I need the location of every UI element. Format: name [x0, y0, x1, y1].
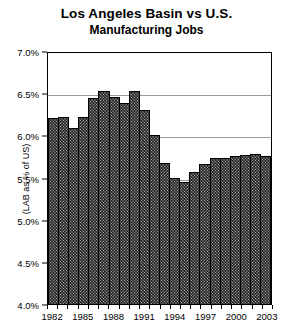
x-tick-label: 1997	[195, 311, 216, 322]
y-tick-label: 7.0%	[17, 47, 39, 58]
chart-title-block: Los Angeles Basin vs U.S. Manufacturing …	[0, 6, 293, 38]
y-tick-label: 6.5%	[17, 89, 39, 100]
x-tick-mark	[190, 305, 191, 309]
x-tick-mark	[98, 305, 99, 309]
x-tick-label: 1982	[42, 311, 63, 322]
plot-area	[47, 52, 272, 305]
chart-subtitle: Manufacturing Jobs	[0, 23, 293, 38]
x-tick-mark	[231, 305, 232, 309]
x-tick-mark	[139, 305, 140, 309]
x-tick-mark	[119, 305, 120, 309]
x-tick-mark	[262, 305, 263, 309]
x-tick-mark	[241, 305, 242, 309]
x-axis: 19821985198819911994199720002003	[47, 305, 272, 330]
x-tick-label: 2000	[226, 311, 247, 322]
y-tick-label: 6.0%	[17, 131, 39, 142]
chart-container: Los Angeles Basin vs U.S. Manufacturing …	[0, 0, 293, 332]
x-tick-mark	[67, 305, 68, 309]
y-tick-label: 5.0%	[17, 215, 39, 226]
x-tick-mark	[170, 305, 171, 309]
x-tick-mark	[149, 305, 150, 309]
x-tick-label: 1991	[134, 311, 155, 322]
x-tick-mark	[272, 305, 273, 309]
bar-series	[48, 53, 271, 304]
y-axis: (LAB as % of US) 7.0%6.5%6.0%5.5%5.0%4.5…	[0, 52, 47, 305]
x-tick-mark	[78, 305, 79, 309]
x-tick-mark	[180, 305, 181, 309]
x-tick-mark	[57, 305, 58, 309]
chart-title: Los Angeles Basin vs U.S.	[0, 6, 293, 22]
x-tick-label: 2003	[256, 311, 277, 322]
bar	[260, 156, 271, 304]
x-tick-mark	[47, 305, 48, 309]
x-tick-label: 1988	[103, 311, 124, 322]
x-tick-mark	[160, 305, 161, 309]
x-tick-label: 1985	[72, 311, 93, 322]
y-tick-label: 4.0%	[17, 300, 39, 311]
x-tick-mark	[88, 305, 89, 309]
x-tick-mark	[221, 305, 222, 309]
y-tick-label: 5.5%	[17, 173, 39, 184]
x-tick-mark	[252, 305, 253, 309]
x-tick-label: 1994	[164, 311, 185, 322]
x-tick-mark	[108, 305, 109, 309]
x-tick-mark	[211, 305, 212, 309]
x-tick-mark	[129, 305, 130, 309]
x-tick-mark	[200, 305, 201, 309]
y-tick-label: 4.5%	[17, 257, 39, 268]
